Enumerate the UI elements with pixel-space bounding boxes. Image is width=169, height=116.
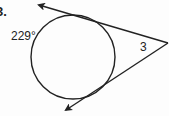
diagram-svg: 3. 229° 3 bbox=[0, 0, 169, 116]
arc-measure-label: 229° bbox=[11, 29, 36, 43]
tangent-circle-diagram: 3. 229° 3 bbox=[0, 0, 169, 116]
problem-number: 3. bbox=[0, 4, 7, 19]
angle-label: 3 bbox=[140, 40, 147, 54]
lower-tangent-line bbox=[66, 43, 168, 110]
upper-tangent-line bbox=[39, 5, 168, 43]
